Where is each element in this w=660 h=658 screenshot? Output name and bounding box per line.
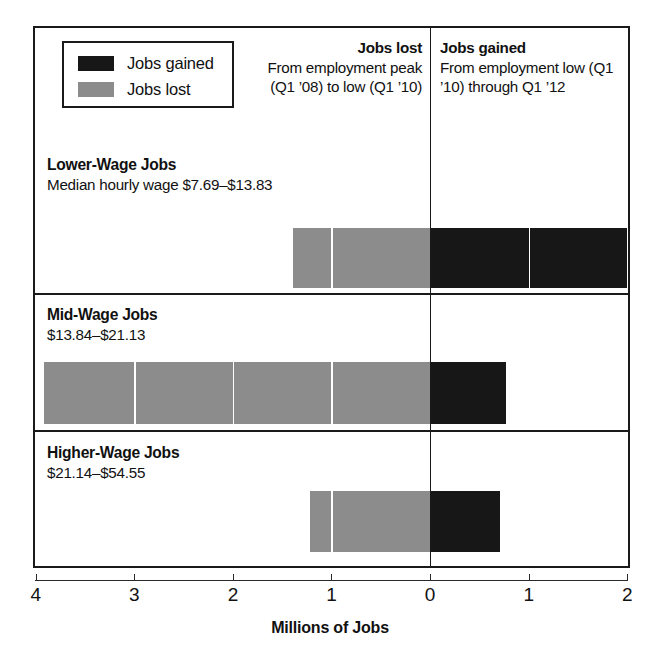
bar-gained-lower-wage xyxy=(430,228,627,288)
legend-label-lost: Jobs lost xyxy=(127,81,190,98)
row-divider-1 xyxy=(33,293,630,295)
legend-swatch-gained-icon xyxy=(78,56,114,71)
bar-unit-divider xyxy=(134,362,136,424)
row-label-lower-wage-title: Lower-Wage Jobs xyxy=(47,155,272,175)
x-axis-tick xyxy=(430,574,431,581)
legend-swatch-lost-icon xyxy=(78,82,114,97)
x-axis-tick-label: 2 xyxy=(213,584,253,606)
header-note-lost-body: From employment peak (Q1 ’08) to low (Q1… xyxy=(267,59,422,96)
bar-lost-mid-wage xyxy=(44,362,430,424)
x-axis-tick-label: 0 xyxy=(410,584,450,606)
x-axis-tick xyxy=(36,574,37,581)
row-label-lower-wage-subtitle: Median hourly wage $7.69–$13.83 xyxy=(47,176,272,193)
x-axis-tick xyxy=(134,574,135,581)
x-axis-tick xyxy=(331,574,332,581)
bar-lost-higher-wage xyxy=(310,491,430,552)
zero-reference-line xyxy=(430,26,431,568)
row-divider-2 xyxy=(33,430,630,432)
x-axis-title: Millions of Jobs xyxy=(0,619,660,637)
row-label-higher-wage-subtitle: $21.14–$54.55 xyxy=(47,464,145,481)
x-axis-tick-label: 3 xyxy=(114,584,154,606)
legend-item-gained: Jobs gained xyxy=(64,50,232,76)
header-note-jobs-gained: Jobs gained From employment low (Q1 ’10)… xyxy=(440,38,620,97)
x-axis-tick-label: 1 xyxy=(311,584,351,606)
x-axis-tick xyxy=(627,574,628,581)
legend-label-gained: Jobs gained xyxy=(127,55,214,72)
bar-lost-lower-wage xyxy=(293,228,430,288)
x-axis-tick xyxy=(233,574,234,581)
x-axis-tick-label: 2 xyxy=(607,584,647,606)
bar-unit-divider xyxy=(529,228,531,288)
header-note-gained-body: From employment low (Q1 ’10) through Q1 … xyxy=(440,59,613,96)
header-note-jobs-lost: Jobs lost From employment peak (Q1 ’08) … xyxy=(244,38,422,97)
bar-unit-divider xyxy=(331,362,333,424)
x-axis-tick-label: 4 xyxy=(16,584,56,606)
row-label-higher-wage: Higher-Wage Jobs $21.14–$54.55 xyxy=(47,443,179,483)
x-axis-tick-label: 1 xyxy=(509,584,549,606)
bar-unit-divider xyxy=(233,362,235,424)
row-label-mid-wage-title: Mid-Wage Jobs xyxy=(47,305,158,325)
bar-gained-mid-wage xyxy=(430,362,506,424)
bar-unit-divider xyxy=(331,491,333,552)
bar-gained-higher-wage xyxy=(430,491,500,552)
chart-container: Jobs gained Jobs lost Jobs lost From emp… xyxy=(0,0,660,658)
row-label-lower-wage: Lower-Wage Jobs Median hourly wage $7.69… xyxy=(47,155,272,195)
bar-unit-divider xyxy=(331,228,333,288)
row-label-mid-wage-subtitle: $13.84–$21.13 xyxy=(47,326,145,343)
row-label-mid-wage: Mid-Wage Jobs $13.84–$21.13 xyxy=(47,305,158,345)
row-label-higher-wage-title: Higher-Wage Jobs xyxy=(47,443,179,463)
header-note-lost-title: Jobs lost xyxy=(244,38,422,58)
x-axis-tick xyxy=(529,574,530,581)
header-note-gained-title: Jobs gained xyxy=(440,38,620,58)
legend-item-lost: Jobs lost xyxy=(64,76,232,102)
legend: Jobs gained Jobs lost xyxy=(62,41,234,108)
